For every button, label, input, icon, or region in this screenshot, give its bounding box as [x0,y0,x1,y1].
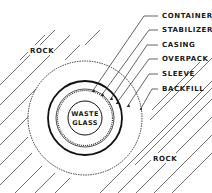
label-stabilizer: STABILIZER [162,26,212,34]
waste-label-line2: GLASS [72,119,98,127]
label-backfill: BACKFILL [162,85,204,93]
diagram-svg: WASTE GLASS CONTAINER STABILIZER CASING … [0,0,212,193]
waste-glass-circle [68,101,102,135]
label-sleeve: SLEEVE [162,70,195,78]
label-rock-upper: ROCK [30,47,54,55]
label-container: CONTAINER [162,12,212,20]
label-overpack: OVERPACK [162,55,209,63]
waste-label-line1: WASTE [71,110,98,118]
label-casing: CASING [162,41,195,49]
repository-cross-section-diagram: WASTE GLASS CONTAINER STABILIZER CASING … [0,0,212,193]
label-rock-lower: ROCK [153,155,177,163]
